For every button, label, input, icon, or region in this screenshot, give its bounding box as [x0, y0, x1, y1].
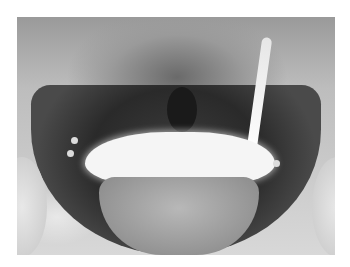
phlebolith-left-2 [67, 150, 74, 157]
right-femoral-head [312, 157, 335, 255]
rectal-gas [167, 87, 197, 132]
xray-image [17, 17, 335, 255]
phlebolith-right [273, 160, 280, 167]
phlebolith-left [71, 137, 78, 144]
